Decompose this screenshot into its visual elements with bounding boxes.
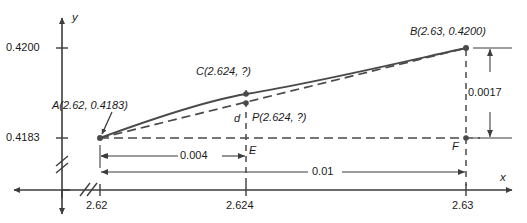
distance-d-label: d	[234, 113, 240, 124]
figure-container: y x 0.4200 0.4183 2.62 2.624 2.63 A(2.62…	[0, 0, 527, 223]
point-A-label: A(2.62, 0.4183)	[52, 100, 128, 111]
point-A-dot	[97, 135, 103, 141]
x-tick-label-2.62: 2.62	[86, 200, 107, 211]
point-F-label: F	[452, 141, 459, 152]
x-tick-label-2.624: 2.624	[226, 200, 254, 211]
point-B-dot	[463, 45, 469, 51]
y-axis-label: y	[72, 12, 78, 24]
point-P-label: P(2.624, ?)	[252, 112, 306, 123]
dimension-0.01	[101, 169, 465, 175]
dimension-label-0.01: 0.01	[312, 166, 333, 177]
label-A-leader-line	[102, 112, 112, 134]
point-B-label: B(2.63, 0.4200)	[410, 26, 486, 37]
y-axis	[56, 18, 68, 214]
x-tick-label-2.63: 2.63	[452, 200, 473, 211]
dimension-label-0.004: 0.004	[180, 150, 208, 161]
point-C-dot	[243, 91, 249, 97]
secant-chord-line	[100, 48, 466, 138]
x-axis	[14, 183, 512, 196]
point-E-label: E	[249, 145, 256, 156]
point-F-dot	[463, 135, 469, 141]
dimension-label-0.0017: 0.0017	[468, 87, 502, 98]
dimension-0.004	[100, 145, 245, 168]
point-C-label: C(2.624, ?)	[196, 66, 251, 77]
x-axis-label: x	[500, 172, 506, 184]
y-tick-label-0.4200: 0.4200	[6, 42, 40, 53]
y-tick-label-0.4183: 0.4183	[6, 132, 40, 143]
point-P-dot	[243, 100, 249, 106]
